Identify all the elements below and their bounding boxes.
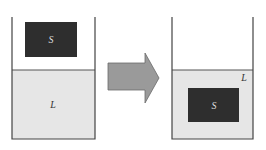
transition-arrow-icon bbox=[108, 53, 159, 103]
container-before: S L bbox=[12, 17, 95, 139]
solid-liquid-diagram: S L S L bbox=[0, 0, 266, 150]
solid-label-before: S bbox=[49, 34, 54, 45]
liquid-label-before: L bbox=[49, 99, 56, 110]
container-after: S L bbox=[172, 17, 253, 139]
solid-label-after: S bbox=[212, 100, 217, 111]
liquid-label-after: L bbox=[240, 72, 247, 83]
